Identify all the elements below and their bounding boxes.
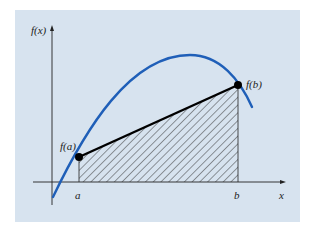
y-axis-arrow-icon — [50, 25, 54, 31]
trapezoid-rule-diagram: f(x) x a b f(a) f(b) — [0, 0, 315, 233]
f-b-label: f(b) — [246, 78, 262, 91]
trapezoid-area — [79, 85, 238, 182]
f-a-label: f(a) — [60, 140, 76, 153]
a-tick-label: a — [75, 189, 81, 201]
x-axis-label: x — [278, 189, 284, 201]
x-axis-arrow-icon — [280, 180, 286, 184]
point-a-dot — [75, 153, 83, 161]
b-tick-label: b — [234, 189, 240, 201]
y-axis-label: f(x) — [31, 24, 47, 37]
point-b-dot — [234, 81, 242, 89]
